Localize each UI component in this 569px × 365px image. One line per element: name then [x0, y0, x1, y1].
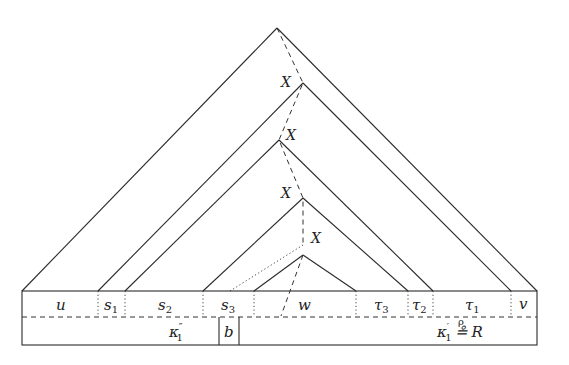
segment-tau1: τ1 [465, 296, 480, 315]
segment-w: w [298, 296, 311, 314]
node-x2-label: X [285, 127, 297, 143]
node-x4-label: X [310, 230, 322, 246]
rho-over-label: ρ [458, 316, 464, 327]
node-x1-label: X [280, 74, 292, 90]
segment-s1: s1 [104, 296, 118, 315]
segment-s3: s3 [221, 296, 235, 315]
subtree-x1 [98, 83, 511, 291]
segment-s2: s2 [158, 296, 172, 315]
segment-v: v [519, 295, 528, 313]
subtree-x3 [203, 198, 408, 291]
segment-tau2: τ2 [412, 296, 427, 315]
outer-triangle [22, 28, 537, 291]
node-x3-label: X [280, 185, 292, 201]
segment-tau3: τ3 [374, 296, 389, 315]
b-label: b [224, 323, 234, 341]
segment-u: u [56, 296, 66, 314]
parse-tree-diagram: X X X X u s1 s2 s3 w τ3 τ2 τ1 v κ″1 b κ′… [0, 0, 569, 365]
subtree-x4 [254, 255, 356, 291]
subtree-x2 [125, 140, 433, 291]
kappa-double-prime: κ″1 [168, 321, 183, 343]
